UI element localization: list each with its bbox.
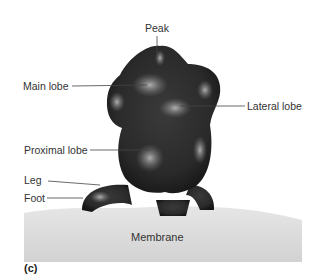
label-leg: Leg — [24, 174, 42, 186]
label-lateral-lobe: Lateral lobe — [247, 100, 302, 112]
protein-body — [107, 46, 220, 193]
label-membrane: Membrane — [131, 231, 184, 243]
panel-label: (c) — [24, 262, 37, 274]
label-peak: Peak — [145, 22, 169, 34]
label-foot: Foot — [24, 192, 45, 204]
label-proximal-lobe: Proximal lobe — [24, 144, 88, 156]
label-main-lobe: Main lobe — [23, 80, 69, 92]
